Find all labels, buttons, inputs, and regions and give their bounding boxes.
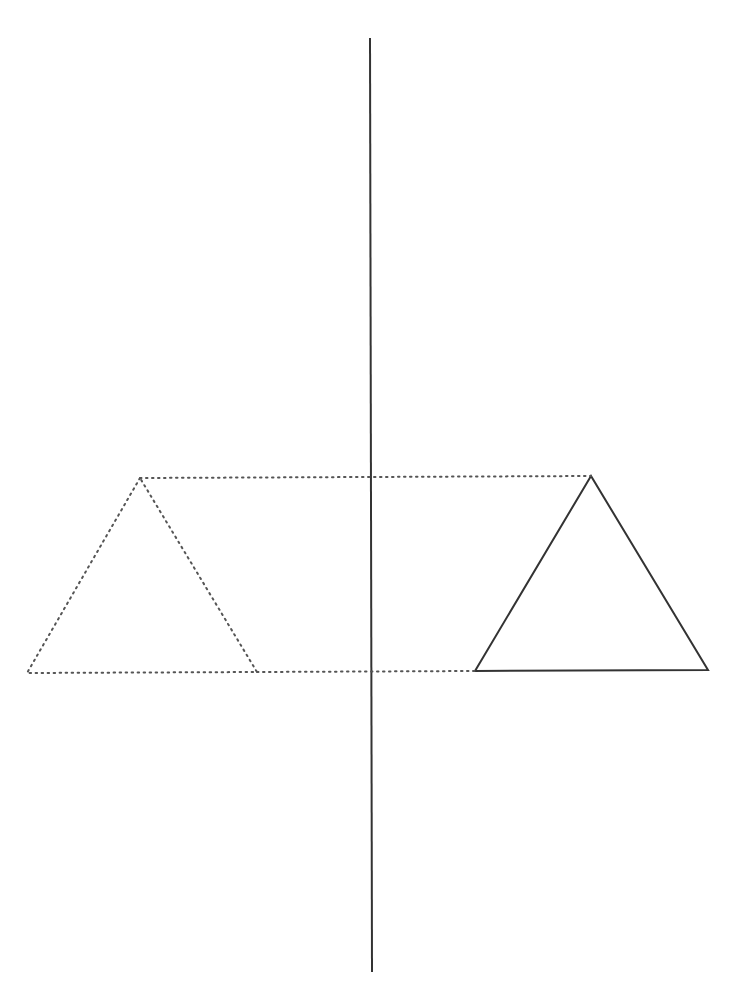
original-triangle bbox=[475, 476, 708, 671]
reflected-triangle bbox=[27, 478, 257, 673]
dotted-connectors bbox=[140, 476, 591, 672]
reflection-diagram bbox=[0, 0, 735, 1000]
dotted-connector bbox=[140, 476, 591, 478]
mirror-line bbox=[370, 38, 372, 972]
dotted-connector bbox=[257, 671, 475, 672]
